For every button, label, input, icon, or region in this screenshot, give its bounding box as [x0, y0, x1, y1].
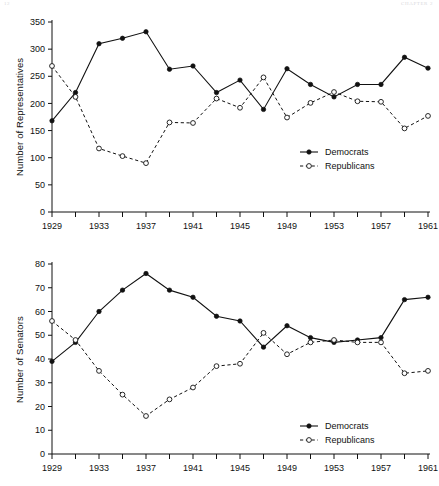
data-point-democrats: [308, 82, 312, 86]
data-point-republicans: [285, 352, 290, 357]
legend-label-republicans: Republicans: [325, 435, 375, 445]
data-point-republicans: [426, 114, 431, 119]
data-point-republicans: [120, 154, 125, 159]
y-tick-label: 0: [40, 449, 45, 459]
data-point-republicans: [214, 364, 219, 369]
data-point-democrats: [167, 288, 171, 292]
chart-representatives: Number of Representatives 05010015020025…: [0, 6, 439, 244]
data-point-democrats: [261, 107, 265, 111]
data-point-democrats: [214, 314, 218, 318]
data-point-democrats: [144, 271, 148, 275]
data-point-republicans: [402, 126, 407, 131]
legend-marker-republicans: [307, 164, 312, 169]
data-point-republicans: [426, 368, 431, 373]
legend-label-republicans: Republicans: [325, 161, 375, 171]
data-point-democrats: [379, 335, 383, 339]
data-point-democrats: [285, 324, 289, 328]
y-tick-label: 30: [35, 378, 45, 388]
x-tick-label: 1945: [230, 463, 250, 473]
y-tick-label: 10: [35, 425, 45, 435]
data-point-democrats: [332, 95, 336, 99]
y-tick-label: 50: [35, 180, 45, 190]
x-tick-label: 1961: [418, 463, 438, 473]
data-point-republicans: [261, 330, 266, 335]
y-tick-label: 60: [35, 307, 45, 317]
x-tick-label: 1953: [324, 221, 344, 231]
data-point-republicans: [285, 115, 290, 120]
data-point-democrats: [426, 295, 430, 299]
x-tick-label: 1945: [230, 221, 250, 231]
x-tick-label: 1933: [89, 463, 109, 473]
data-point-democrats: [191, 64, 195, 68]
data-point-democrats: [167, 67, 171, 71]
y-tick-label: 40: [35, 354, 45, 364]
data-point-democrats: [50, 119, 54, 123]
data-point-democrats: [402, 55, 406, 59]
data-point-republicans: [144, 414, 149, 419]
x-tick-label: 1937: [136, 221, 156, 231]
data-point-democrats: [120, 36, 124, 40]
data-point-democrats: [97, 42, 101, 46]
data-point-democrats: [144, 30, 148, 34]
y-tick-label: 300: [30, 44, 45, 54]
data-point-republicans: [167, 397, 172, 402]
legend-label-democrats: Democrats: [325, 421, 369, 431]
x-tick-label: 1949: [277, 463, 297, 473]
x-tick-label: 1929: [42, 221, 62, 231]
data-point-republicans: [261, 75, 266, 80]
data-point-democrats: [238, 78, 242, 82]
data-point-republicans: [191, 385, 196, 390]
data-point-republicans: [355, 340, 360, 345]
plot-representatives: 0501001502002503003501929193319371941194…: [0, 6, 439, 244]
series-line-republicans: [52, 321, 428, 416]
data-point-republicans: [97, 368, 102, 373]
data-point-republicans: [308, 340, 313, 345]
data-point-democrats: [50, 359, 54, 363]
data-point-democrats: [261, 345, 265, 349]
x-tick-label: 1957: [371, 463, 391, 473]
y-tick-label: 50: [35, 330, 45, 340]
y-axis-title-representatives: Number of Representatives: [14, 58, 25, 176]
data-point-republicans: [402, 371, 407, 376]
data-point-republicans: [214, 96, 219, 101]
chart-senators: Number of Senators 010203040506070801929…: [0, 248, 439, 486]
y-tick-label: 250: [30, 71, 45, 81]
data-point-republicans: [144, 161, 149, 166]
x-tick-label: 1929: [42, 463, 62, 473]
data-point-democrats: [238, 319, 242, 323]
y-tick-label: 350: [30, 17, 45, 27]
data-point-democrats: [402, 297, 406, 301]
data-point-republicans: [50, 319, 55, 324]
x-tick-label: 1941: [183, 221, 203, 231]
data-point-republicans: [238, 361, 243, 366]
data-point-democrats: [214, 90, 218, 94]
data-point-republicans: [355, 99, 360, 104]
y-tick-label: 70: [35, 283, 45, 293]
data-point-democrats: [97, 309, 101, 313]
data-point-republicans: [191, 121, 196, 126]
plot-senators: 0102030405060708019291933193719411945194…: [0, 248, 439, 486]
data-point-democrats: [308, 335, 312, 339]
y-tick-label: 20: [35, 402, 45, 412]
data-point-republicans: [97, 146, 102, 151]
y-axis-title-senators: Number of Senators: [14, 316, 25, 403]
data-point-republicans: [332, 338, 337, 343]
legend-marker-democrats: [307, 424, 311, 428]
x-tick-label: 1937: [136, 463, 156, 473]
data-point-republicans: [120, 392, 125, 397]
legend-marker-democrats: [307, 150, 311, 154]
data-point-republicans: [379, 340, 384, 345]
data-point-republicans: [332, 90, 337, 95]
y-tick-label: 0: [40, 207, 45, 217]
x-tick-label: 1953: [324, 463, 344, 473]
data-point-republicans: [308, 100, 313, 105]
data-point-republicans: [379, 99, 384, 104]
x-tick-label: 1949: [277, 221, 297, 231]
data-point-republicans: [50, 64, 55, 69]
data-point-democrats: [379, 82, 383, 86]
data-point-democrats: [426, 66, 430, 70]
legend-label-democrats: Democrats: [325, 147, 369, 157]
data-point-democrats: [120, 288, 124, 292]
data-point-republicans: [167, 120, 172, 125]
data-point-democrats: [355, 82, 359, 86]
